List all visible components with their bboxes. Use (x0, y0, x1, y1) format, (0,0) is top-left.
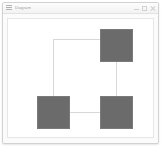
window-titlebar[interactable]: Diagram (3, 3, 158, 14)
close-icon[interactable] (150, 6, 155, 11)
diagram-graph (8, 19, 154, 138)
minimize-icon[interactable] (134, 6, 139, 11)
window-title: Diagram (15, 5, 111, 11)
maximize-icon[interactable] (142, 6, 147, 11)
canvas-container (3, 14, 158, 143)
node-layer (37, 29, 132, 128)
menu-icon (6, 5, 12, 11)
diagram-canvas[interactable] (7, 18, 154, 138)
window-controls (134, 6, 156, 11)
node-bottom-left[interactable] (37, 96, 69, 128)
node-bottom-right[interactable] (100, 96, 132, 128)
node-top-right[interactable] (100, 29, 132, 61)
app-window: Diagram (2, 2, 159, 144)
